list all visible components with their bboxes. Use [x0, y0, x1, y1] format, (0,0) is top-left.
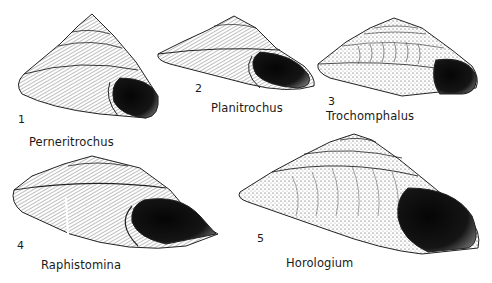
shell-illustration-perneritrochus [10, 12, 170, 120]
shell-illustration-planitrochus [148, 14, 320, 98]
figure-number-5: 5 [257, 233, 264, 244]
figure-label-trochomphalus: Trochomphalus [326, 111, 414, 123]
figure-number-2: 2 [195, 83, 202, 94]
figure-number-4: 4 [17, 240, 24, 251]
figure-number-3: 3 [328, 96, 335, 107]
shell-illustration-trochomphalus [312, 16, 484, 100]
shell-illustration-horologium [232, 132, 488, 256]
shell-illustration-raphistomina [10, 154, 222, 254]
figure-label-planitrochus: Planitrochus [211, 103, 283, 115]
gastropod-illustration-plate: 1 Perneritrochus 2 Planitrochus 3 Trocho… [0, 0, 492, 283]
figure-label-horologium: Horologium [286, 258, 353, 270]
figure-label-perneritrochus: Perneritrochus [29, 137, 114, 149]
figure-number-1: 1 [18, 114, 25, 125]
figure-label-raphistomina: Raphistomina [41, 260, 121, 272]
